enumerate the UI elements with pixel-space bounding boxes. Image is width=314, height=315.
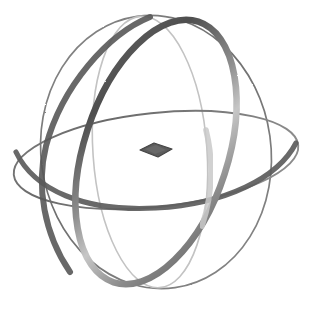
figure-background: [0, 0, 314, 315]
figure-canvas: Wireframe sphere with three intersecting…: [0, 0, 314, 315]
sphere-wireframe-svg: [0, 0, 314, 315]
